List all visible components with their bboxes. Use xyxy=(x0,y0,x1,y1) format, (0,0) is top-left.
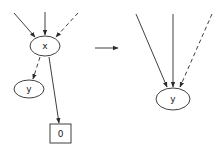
right-incoming-edge-dashed xyxy=(180,14,212,87)
left-incoming-edge-dashed xyxy=(56,13,78,37)
node-y-left: y xyxy=(14,80,44,98)
node-y-right-label: y xyxy=(170,94,176,104)
left-graph: x y 0 xyxy=(14,12,78,143)
edge-x-to-y-dashed xyxy=(33,57,40,79)
node-y-left-label: y xyxy=(26,84,32,94)
node-x: x xyxy=(30,36,60,56)
node-zero-label: 0 xyxy=(58,129,64,139)
node-x-label: x xyxy=(42,41,48,51)
right-graph: y xyxy=(136,14,212,110)
left-incoming-edge-1 xyxy=(14,13,35,37)
node-y-right: y xyxy=(156,88,190,110)
node-zero: 0 xyxy=(50,124,71,143)
right-incoming-edge-1 xyxy=(136,14,167,87)
graph-rewrite-diagram: x y 0 y xyxy=(0,0,222,151)
edge-x-to-zero xyxy=(49,57,59,123)
